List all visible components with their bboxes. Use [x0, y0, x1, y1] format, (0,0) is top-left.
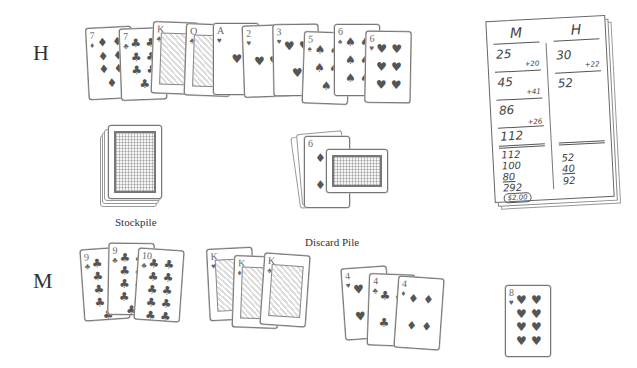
card-suit-icon: ♠ [307, 44, 312, 54]
suit-icon: ♠ [320, 79, 332, 92]
discard-pile-label: Discard Pile [305, 236, 359, 248]
suit-icon: ♥ [283, 40, 295, 53]
suit-icon: ♥ [531, 308, 543, 321]
suit-icon: ♦ [420, 320, 433, 334]
suit-icon: ♦ [407, 292, 420, 306]
card-back-pattern [332, 155, 382, 187]
suit-icon: ♥ [375, 78, 387, 91]
payout-badge: $2.00 [503, 192, 532, 203]
player-label-m: M [33, 268, 53, 294]
suit-icon: ♥ [516, 294, 528, 307]
suit-icon: ♥ [231, 53, 243, 66]
suit-icon: ♥ [253, 55, 265, 68]
suit-icon: ♥ [516, 308, 528, 321]
suit-icon: ♥ [354, 310, 367, 324]
card-suit-icon: ♦ [90, 41, 95, 51]
card-pips: ♥♥♥♥♥♥♥♥ [514, 294, 544, 348]
playing-card[interactable]: 8 ♥♥♥♥♥♥♥♥♥ [505, 285, 551, 357]
suit-icon: ♦ [98, 63, 111, 77]
stockpile[interactable] [100, 125, 170, 205]
suit-icon: ♦ [405, 319, 418, 333]
suit-icon: ♣ [130, 51, 142, 64]
column-header-h: H [546, 20, 605, 39]
stockpile-top-card[interactable] [108, 125, 162, 199]
face-card-art [268, 264, 304, 318]
suit-icon: ♣ [130, 37, 142, 50]
suit-icon: ♥ [531, 294, 543, 307]
suit-icon: ♥ [516, 321, 528, 334]
suit-icon: ♣ [378, 317, 390, 330]
suit-icon: ♣ [138, 77, 150, 90]
suit-icon: ♣ [144, 309, 157, 323]
suit-icon: ♣ [379, 290, 391, 303]
playing-card[interactable]: K ♠ [260, 252, 311, 327]
playing-card[interactable]: 4 ♦♦♦♦♦ [394, 275, 445, 350]
suit-icon: ♥ [352, 283, 365, 297]
suit-icon: ♦ [422, 293, 435, 307]
suit-icon: ♥ [391, 43, 403, 56]
suit-icon: ♥ [376, 42, 388, 55]
score-column-h: H 30 +22 52 52 40 92 [546, 16, 613, 199]
card-pips: ♦♦♦♦ [403, 285, 437, 341]
playing-card[interactable]: 6 ♥♥♥♥♥♥♥ [364, 31, 411, 104]
player-label-h: H [33, 40, 49, 66]
score-column-m: M 25 +20 45 +41 86 +26 112 112 100 80 29… [486, 19, 553, 202]
suit-icon: ♣ [159, 310, 172, 324]
card-back-pattern [114, 131, 156, 193]
suit-icon: ♠ [345, 54, 357, 67]
suit-icon: ♠ [345, 36, 357, 49]
stockpile-label: Stockpile [115, 216, 157, 228]
suit-icon: ♥ [390, 61, 402, 74]
suit-icon: ♦ [106, 76, 119, 90]
discard-top-card[interactable] [326, 149, 388, 193]
score-pad: M 25 +20 45 +41 86 +26 112 112 100 80 29… [485, 15, 614, 203]
suit-icon: ♣ [131, 64, 143, 77]
card-pips: ♥♥♥♥♥♥ [374, 40, 405, 95]
suit-icon: ♥ [390, 79, 402, 92]
suit-icon: ♠ [345, 72, 357, 85]
suit-icon: ♥ [516, 335, 528, 348]
discard-pile[interactable]: 6 ♦♦♦♦ [290, 130, 400, 210]
column-header-m: M [487, 23, 546, 42]
card-pips: ♣♣♣♣♣♣♣♣♣♣ [143, 257, 177, 313]
suit-icon: ♥ [531, 335, 543, 348]
suit-icon: ♥ [531, 321, 543, 334]
suit-icon: ♠ [314, 43, 326, 56]
card-suit-icon: ♠ [338, 37, 342, 47]
suit-icon: ♠ [313, 61, 325, 74]
suit-icon: ♦ [96, 36, 109, 50]
playing-card[interactable]: 10 ♣♣♣♣♣♣♣♣♣♣♣ [134, 247, 185, 322]
suit-icon: ♥ [375, 60, 387, 73]
suit-icon: ♥ [291, 67, 303, 80]
